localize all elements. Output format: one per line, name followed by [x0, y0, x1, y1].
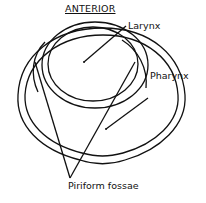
- piriform-label: Piriform fossae: [68, 181, 139, 191]
- diagram-drawing: [0, 0, 206, 203]
- pharynx-label: Pharynx: [150, 71, 189, 81]
- larynx-inner-ring: [48, 27, 138, 101]
- larynx-label: Larynx: [128, 21, 160, 31]
- pharynx-larynx-diagram: ANTERIOR Larynx Pharynx Piriform fossae: [0, 0, 206, 203]
- larynx-leader: [84, 26, 126, 62]
- pharynx-outer-wall: [18, 28, 185, 164]
- diagram-title: ANTERIOR: [65, 4, 116, 14]
- pharynx-inner-wall: [25, 35, 178, 156]
- left-piriform-fold: [33, 42, 45, 92]
